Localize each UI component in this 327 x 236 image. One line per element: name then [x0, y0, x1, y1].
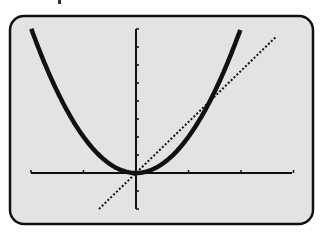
screen-frame: [10, 16, 313, 224]
calculator-graph-screen: [0, 0, 327, 236]
